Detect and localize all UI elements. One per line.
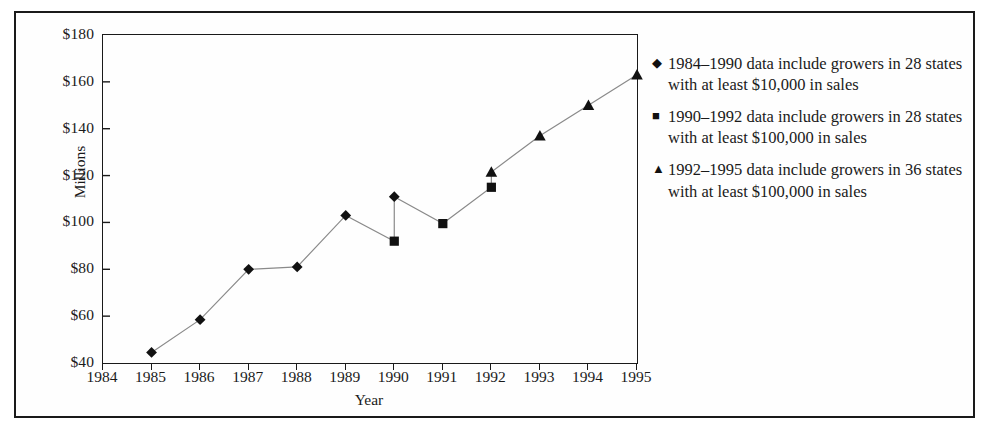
square-data-point	[438, 219, 447, 228]
x-axis-title: Year	[102, 391, 636, 409]
chart-figure: Millions $40$60$80$100$120$140$160$180 1…	[14, 11, 975, 418]
legend-entry: ▲1992–1995 data include growers in 36 st…	[652, 159, 970, 201]
legend-entry: ■1990–1992 data include growers in 28 st…	[652, 106, 970, 148]
y-tick-label: $100	[63, 212, 94, 230]
x-tick-label: 1988	[281, 368, 312, 386]
x-tick-label: 1994	[572, 368, 603, 386]
square-data-point	[487, 183, 496, 192]
square-data-point	[390, 237, 399, 246]
x-tick-label: 1995	[621, 368, 652, 386]
y-tick-label: $160	[63, 72, 94, 90]
y-tick-label: $180	[63, 25, 94, 43]
legend-label: 1984–1990 data include growers in 28 sta…	[668, 53, 970, 95]
series-line	[152, 75, 637, 353]
x-tick-label: 1984	[87, 368, 118, 386]
x-tick-label: 1985	[135, 368, 166, 386]
y-tick-label: $60	[70, 306, 94, 324]
triangle-data-point	[534, 130, 546, 140]
x-tick-label: 1986	[184, 368, 215, 386]
x-tick-label: 1990	[378, 368, 409, 386]
triangle-data-point	[631, 69, 643, 79]
plot-area	[102, 34, 638, 364]
y-tick-label: $80	[70, 259, 94, 277]
x-tick-label: 1987	[232, 368, 263, 386]
x-tick-label: 1991	[426, 368, 457, 386]
legend-label: 1990–1992 data include growers in 28 sta…	[668, 106, 970, 148]
chart-legend: ◆1984–1990 data include growers in 28 st…	[652, 53, 970, 213]
triangle-marker-icon: ▲	[652, 159, 668, 175]
diamond-data-point	[389, 191, 400, 202]
x-axis-tick-labels: 1984198519861987198819891990199119921993…	[102, 368, 636, 392]
square-marker-icon: ■	[652, 106, 668, 122]
triangle-data-point	[486, 166, 498, 176]
y-tick-label: $120	[63, 166, 94, 184]
legend-label: 1992–1995 data include growers in 36 sta…	[668, 159, 970, 201]
diamond-marker-icon: ◆	[652, 53, 668, 69]
x-tick-label: 1992	[475, 368, 506, 386]
legend-entry: ◆1984–1990 data include growers in 28 st…	[652, 53, 970, 95]
series-layer	[103, 35, 637, 363]
y-axis-tick-labels: $40$60$80$100$120$140$160$180	[16, 34, 94, 362]
x-tick-label: 1993	[523, 368, 554, 386]
triangle-data-point	[583, 99, 595, 109]
x-tick-label: 1989	[329, 368, 360, 386]
y-tick-label: $140	[63, 119, 94, 137]
diamond-data-point	[146, 347, 157, 358]
